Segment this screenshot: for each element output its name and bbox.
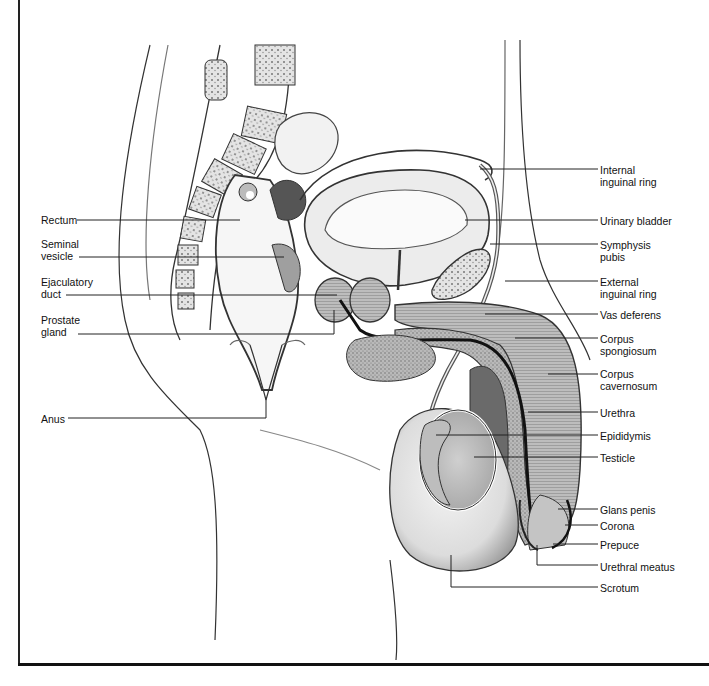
label-glans-penis: Glans penis — [600, 504, 655, 516]
label-epididymis: Epididymis — [600, 430, 651, 442]
label-text: Anus — [41, 413, 65, 425]
label-testicle: Testicle — [600, 452, 635, 464]
label-text: gland — [41, 326, 80, 338]
label-text: Epididymis — [600, 430, 651, 442]
label-prostate-gland: Prostategland — [41, 314, 80, 338]
label-anus: Anus — [41, 413, 65, 425]
label-text: Scrotum — [600, 582, 639, 594]
intestine-loop — [275, 113, 338, 174]
prostate-gland-shape — [315, 278, 390, 322]
label-text: spongiosum — [600, 345, 657, 357]
label-text: Urinary bladder — [600, 215, 672, 227]
label-text: Internal — [600, 164, 657, 176]
label-urethral-meatus: Urethral meatus — [600, 561, 675, 573]
label-text: Rectum — [41, 214, 77, 226]
label-corpus-cavernosum: Corpuscavernosum — [600, 368, 657, 392]
label-internal-inguinal-ring: Internalinguinal ring — [600, 164, 657, 188]
label-corpus-spongiosum: Corpusspongiosum — [600, 333, 657, 357]
label-vas-deferens: Vas deferens — [600, 309, 661, 321]
label-text: Vas deferens — [600, 309, 661, 321]
label-text: inguinal ring — [600, 288, 657, 300]
label-rectum: Rectum — [41, 214, 77, 226]
label-text: Testicle — [600, 452, 635, 464]
label-text: pubis — [600, 251, 651, 263]
label-text: Prostate — [41, 314, 80, 326]
label-text: Prepuce — [600, 539, 639, 551]
label-text: External — [600, 276, 657, 288]
label-text: Seminal — [41, 238, 79, 250]
label-ejaculatory-duct: Ejaculatoryduct — [41, 276, 93, 300]
label-urinary-bladder: Urinary bladder — [600, 215, 672, 227]
label-text: cavernosum — [600, 380, 657, 392]
label-corona: Corona — [600, 520, 634, 532]
label-text: Urethral meatus — [600, 561, 675, 573]
label-prepuce: Prepuce — [600, 539, 639, 551]
label-text: vesicle — [41, 250, 79, 262]
label-seminal-vesicle: Seminalvesicle — [41, 238, 79, 262]
label-text: Ejaculatory — [41, 276, 93, 288]
label-urethra: Urethra — [600, 407, 635, 419]
label-text: Corpus — [600, 333, 657, 345]
label-external-inguinal-ring: Externalinguinal ring — [600, 276, 657, 300]
label-text: Corona — [600, 520, 634, 532]
label-symphysis-pubis: Symphysispubis — [600, 239, 651, 263]
label-text: Glans penis — [600, 504, 655, 516]
label-text: inguinal ring — [600, 176, 657, 188]
leader-anus — [68, 400, 266, 418]
label-scrotum: Scrotum — [600, 582, 639, 594]
label-text: Urethra — [600, 407, 635, 419]
label-text: Symphysis — [600, 239, 651, 251]
label-text: duct — [41, 288, 93, 300]
label-text: Corpus — [600, 368, 657, 380]
penile-bulb — [347, 335, 436, 381]
